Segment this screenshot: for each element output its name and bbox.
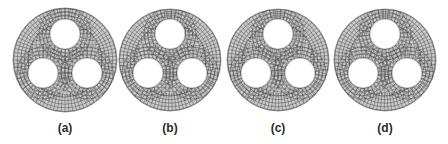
caption-d: (d): [329, 121, 441, 135]
panel-b: (b): [114, 0, 226, 144]
mesh-diagram-a: [9, 0, 121, 120]
panel-c: (c): [222, 0, 334, 144]
mesh-diagram-c: [222, 0, 334, 120]
caption-a: (a): [9, 121, 121, 135]
caption-c: (c): [222, 121, 334, 135]
panel-a: (a): [9, 0, 121, 144]
mesh-diagram-b: [114, 0, 226, 120]
caption-b: (b): [114, 121, 226, 135]
mesh-diagram-d: [329, 0, 441, 120]
panel-d: (d): [329, 0, 441, 144]
